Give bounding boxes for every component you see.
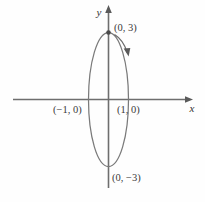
point-label-right: (1, 0) bbox=[117, 104, 140, 116]
point-label-left: (−1, 0) bbox=[53, 104, 82, 116]
graph-figure: y x (0, 3) (0, −3) (−1, 0) (1, 0) bbox=[0, 0, 205, 202]
direction-arrow-head bbox=[124, 48, 131, 56]
y-axis-arrowhead bbox=[105, 5, 112, 13]
coordinate-plane-plot: y x (0, 3) (0, −3) (−1, 0) (1, 0) bbox=[0, 0, 205, 202]
start-point-marker bbox=[106, 30, 111, 35]
x-axis bbox=[13, 96, 193, 103]
x-axis-label: x bbox=[189, 102, 195, 114]
y-axis-label: y bbox=[96, 6, 102, 18]
point-label-top: (0, 3) bbox=[114, 22, 137, 34]
point-label-bottom: (0, −3) bbox=[112, 172, 141, 184]
